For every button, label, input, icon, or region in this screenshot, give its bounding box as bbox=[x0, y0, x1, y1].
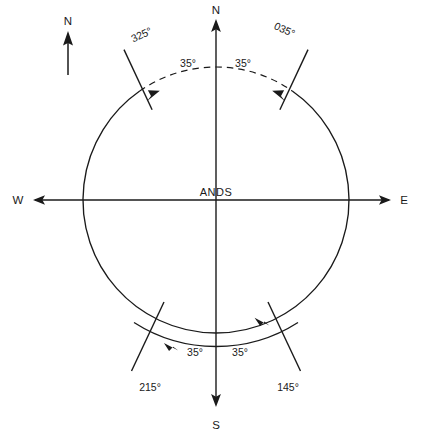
north-south-axis bbox=[211, 19, 221, 407]
axis-label-north: N bbox=[212, 4, 220, 16]
north-indicator-label: N bbox=[64, 15, 72, 27]
bearing-label-145: 145° bbox=[277, 381, 299, 393]
angle-label-top-left: 35° bbox=[180, 57, 196, 69]
bearing-line-145 bbox=[268, 302, 301, 371]
axis-label-south: S bbox=[212, 419, 220, 431]
bearing-label-035: 035° bbox=[272, 19, 297, 39]
axis-label-east: E bbox=[400, 194, 408, 206]
bearing-diagram-svg: N N S E W ANDS 325° 035° 145° 215° 35° 3… bbox=[0, 0, 422, 436]
arrowhead-bottom-left bbox=[162, 343, 179, 354]
angle-label-top-right: 35° bbox=[235, 57, 251, 69]
axis-label-west: W bbox=[13, 194, 24, 206]
centre-label: ANDS bbox=[200, 186, 233, 198]
north-arrow-indicator: N bbox=[63, 15, 73, 75]
angle-label-bottom-right: 35° bbox=[232, 346, 248, 358]
bearing-label-325: 325° bbox=[129, 24, 154, 44]
diagram-canvas: N N S E W ANDS 325° 035° 145° 215° 35° 3… bbox=[0, 0, 422, 436]
bearing-line-215 bbox=[132, 302, 165, 371]
angle-label-bottom-left: 35° bbox=[187, 346, 203, 358]
bearing-label-215: 215° bbox=[139, 381, 161, 393]
